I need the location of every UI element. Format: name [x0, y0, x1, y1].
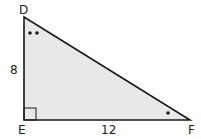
vertex-label-f: F [188, 124, 195, 136]
side-label-ef: 12 [101, 124, 116, 136]
triangle-def [24, 17, 190, 120]
vertex-label-d: D [19, 4, 28, 16]
side-label-de: 8 [10, 64, 18, 76]
angle-f-dot [166, 111, 170, 115]
angle-d-dot-2 [35, 31, 39, 35]
vertex-label-e: E [18, 124, 26, 136]
angle-d-dot-1 [28, 31, 32, 35]
triangle-figure [0, 0, 201, 139]
